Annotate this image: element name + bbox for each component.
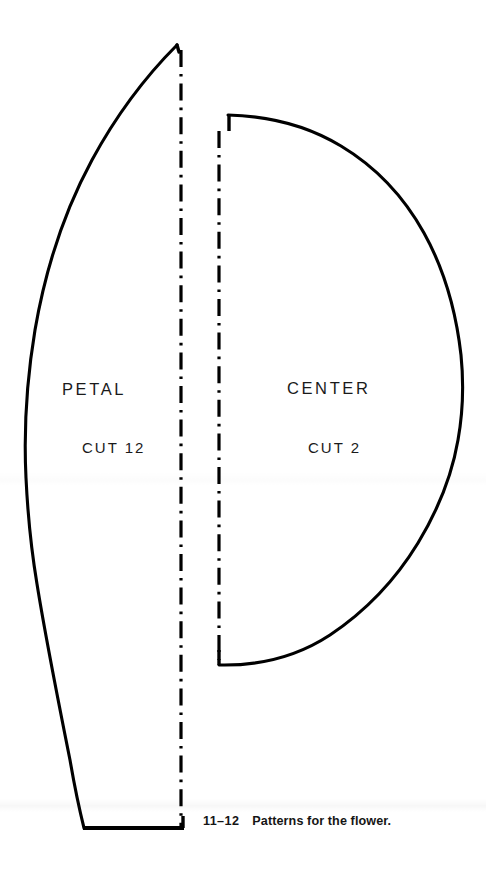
center-piece-label: CENTER: [287, 380, 370, 397]
petal-piece-label: PETAL: [62, 381, 126, 398]
figure-caption: 11–12Patterns for the flower.: [203, 815, 391, 829]
figure-number: 11–12: [203, 814, 239, 828]
center-cut-quantity-label: CUT 2: [308, 440, 361, 455]
petal-pattern-outline: [25, 45, 184, 828]
petal-cut-quantity-label: CUT 12: [82, 440, 145, 455]
pattern-diagram: [0, 0, 486, 871]
figure-page: PETAL CUT 12 CENTER CUT 2 11–12Patterns …: [0, 0, 486, 871]
figure-caption-text: Patterns for the flower.: [252, 814, 391, 828]
